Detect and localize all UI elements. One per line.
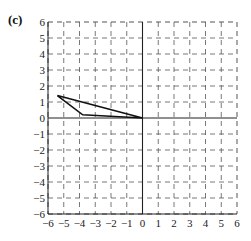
x-tick-label: −2 bbox=[105, 217, 117, 229]
x-tick-label: 5 bbox=[219, 217, 225, 229]
y-tick-label: −1 bbox=[33, 128, 45, 140]
tick-labels: −6−5−4−3−2−10123456−6−5−4−3−2−10123456 bbox=[33, 16, 240, 229]
y-tick-label: 5 bbox=[40, 32, 46, 44]
x-tick-label: −1 bbox=[121, 217, 133, 229]
y-tick-label: 2 bbox=[40, 80, 46, 92]
coordinate-grid-plot: −6−5−4−3−2−10123456−6−5−4−3−2−10123456 bbox=[0, 0, 251, 241]
triangle-outline bbox=[57, 96, 142, 118]
y-tick-label: −6 bbox=[33, 208, 45, 220]
y-tick-label: −3 bbox=[33, 160, 45, 172]
y-tick-label: 6 bbox=[40, 16, 46, 28]
x-tick-label: −4 bbox=[74, 217, 86, 229]
y-tick-label: 4 bbox=[40, 48, 46, 60]
x-tick-label: 1 bbox=[156, 217, 162, 229]
y-tick-label: −2 bbox=[33, 144, 45, 156]
x-tick-label: 2 bbox=[171, 217, 177, 229]
x-tick-label: 3 bbox=[187, 217, 193, 229]
x-tick-label: 6 bbox=[234, 217, 240, 229]
y-tick-label: −5 bbox=[33, 192, 45, 204]
x-tick-label: 4 bbox=[203, 217, 209, 229]
x-tick-label: −5 bbox=[58, 217, 70, 229]
y-tick-label: −4 bbox=[33, 176, 45, 188]
y-tick-label: 1 bbox=[40, 96, 46, 108]
triangle-shape bbox=[57, 96, 142, 118]
y-tick-label: 3 bbox=[40, 64, 46, 76]
y-tick-label: 0 bbox=[40, 112, 46, 124]
x-tick-label: −3 bbox=[89, 217, 101, 229]
x-tick-label: 0 bbox=[140, 217, 146, 229]
